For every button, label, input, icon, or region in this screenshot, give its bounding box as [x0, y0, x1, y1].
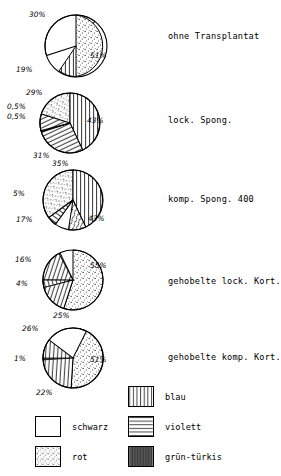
pie-5-label-schwarz: 26%: [22, 325, 38, 332]
pie-2-label-gruen-b: 0,5%: [7, 113, 26, 120]
pie-2-label-gruen-a: 0,5%: [7, 103, 26, 110]
legend-label-gruen-tuerkis: grün-türkis: [165, 452, 222, 462]
pie-2-label-rot: 29%: [26, 89, 42, 96]
violett-swatch-icon: [128, 416, 154, 437]
pie-3-label-violett: 5%: [13, 190, 25, 197]
pie-5-label-gruen: 1%: [14, 355, 26, 362]
pie-3-label-blau: 43%: [88, 215, 104, 222]
gruen-tuerkis-swatch-icon: [128, 446, 154, 467]
pie-chart-figure: 30% 51% 19% ohne Transplantat 29% 43% 31…: [0, 0, 281, 476]
pie-2-label-blau: 43%: [87, 117, 103, 124]
legend-item-blau: blau: [128, 386, 186, 407]
pie-3-svg: [40, 167, 106, 233]
pie-1-svg: [42, 12, 110, 80]
pie-5-label-rot: 51%: [90, 356, 106, 363]
pie-1-label-blau: 19%: [16, 66, 32, 73]
blau-swatch-icon: [128, 386, 154, 407]
pie-3-label-rot: 35%: [52, 160, 68, 167]
pie-4-label-blau: 25%: [53, 312, 69, 319]
series-label-1: ohne Transplantat: [168, 31, 259, 41]
pie-4-label-schwarz: 16%: [15, 256, 31, 263]
pie-4-label-violett: 4%: [16, 280, 28, 287]
schwarz-swatch-icon: [35, 416, 61, 437]
pie-3-label-schwarz: 17%: [16, 216, 32, 223]
legend-item-rot: rot: [35, 446, 88, 467]
legend-label-rot: rot: [72, 452, 88, 462]
pie-chart-4: [40, 247, 106, 313]
legend: blau violett grün-türkis schwarz rot: [0, 386, 281, 476]
pie-4-label-rot: 55%: [90, 262, 106, 269]
legend-label-schwarz: schwarz: [72, 422, 108, 432]
legend-label-violett: violett: [165, 422, 201, 432]
series-label-3: komp. Spong. 400: [168, 194, 254, 204]
series-label-2: lock. Spong.: [168, 115, 233, 125]
pie-chart-1: [42, 12, 110, 80]
rot-swatch-icon: [35, 446, 61, 467]
legend-item-gruen-tuerkis: grün-türkis: [128, 446, 222, 467]
pie-4-svg: [40, 247, 106, 313]
pie-chart-3: [40, 167, 106, 233]
legend-item-schwarz: schwarz: [35, 416, 108, 437]
legend-label-blau: blau: [165, 392, 186, 402]
series-label-4: gehobelte lock. Kort.: [168, 276, 281, 286]
pie-1-label-schwarz: 30%: [29, 11, 45, 18]
series-label-5: gehobelte komp. Kort. 600: [168, 352, 281, 362]
pie-1-label-rot: 51%: [90, 52, 106, 59]
pie-2-label-violett: 31%: [33, 152, 49, 159]
legend-item-violett: violett: [128, 416, 201, 437]
